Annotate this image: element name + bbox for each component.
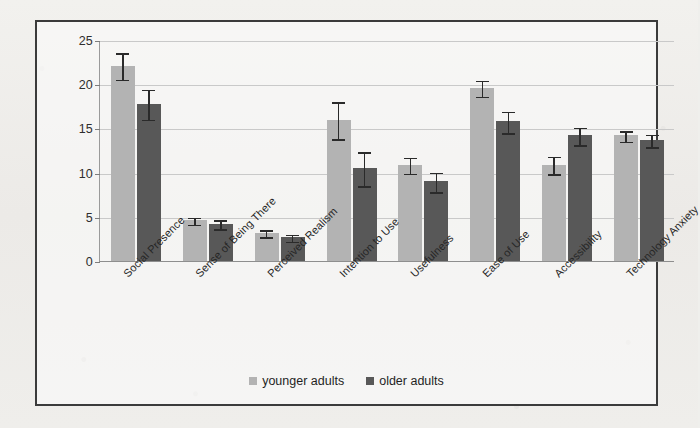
error-bar	[640, 41, 664, 261]
bar-group	[111, 41, 161, 261]
legend-swatch-icon	[366, 377, 374, 385]
error-bar	[614, 41, 638, 261]
bar-group	[183, 41, 233, 261]
y-tick-mark	[95, 85, 100, 86]
legend-label: younger adults	[262, 374, 344, 388]
legend-item: younger adults	[249, 374, 344, 388]
bar-group	[614, 41, 664, 261]
y-tick-label: 5	[86, 211, 93, 225]
error-bar	[542, 41, 566, 261]
error-bar	[111, 41, 135, 261]
chart-legend: younger adultsolder adults	[37, 374, 656, 388]
y-tick-label: 20	[79, 78, 93, 92]
bar-group	[398, 41, 448, 261]
y-tick-label: 25	[79, 34, 93, 48]
error-bar	[183, 41, 207, 261]
bar-group	[255, 41, 305, 261]
error-bar	[470, 41, 494, 261]
error-bar	[137, 41, 161, 261]
error-bar	[424, 41, 448, 261]
y-tick-label: 0	[86, 255, 93, 269]
figure-frame: 0510152025 Social PresenceSense of Being…	[35, 20, 658, 406]
error-bar	[568, 41, 592, 261]
y-tick-mark	[95, 174, 100, 175]
legend-item: older adults	[366, 374, 444, 388]
legend-swatch-icon	[249, 377, 257, 385]
y-axis: 0510152025	[59, 41, 93, 262]
error-bar	[398, 41, 422, 261]
y-tick-label: 10	[79, 167, 93, 181]
bar-group	[470, 41, 520, 261]
y-tick-mark	[95, 129, 100, 130]
error-bar	[209, 41, 233, 261]
error-bar	[281, 41, 305, 261]
y-tick-label: 15	[79, 122, 93, 136]
y-tick-mark	[95, 218, 100, 219]
bar-group	[542, 41, 592, 261]
y-tick-mark	[95, 262, 100, 263]
legend-label: older adults	[379, 374, 444, 388]
error-bar	[327, 41, 351, 261]
bar-group	[327, 41, 377, 261]
error-bar	[353, 41, 377, 261]
error-bar	[255, 41, 279, 261]
bar-chart: 0510152025 Social PresenceSense of Being…	[37, 22, 656, 404]
error-bar	[496, 41, 520, 261]
y-tick-mark	[95, 41, 100, 42]
